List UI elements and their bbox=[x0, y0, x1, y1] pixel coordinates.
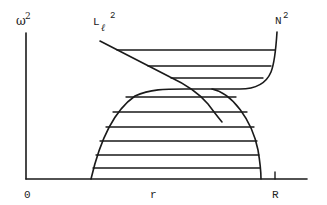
lamb-curve-label: L bbox=[93, 16, 100, 28]
lamb-curve-label-sub: ℓ bbox=[101, 22, 105, 33]
bv-curve-label: N bbox=[275, 15, 282, 27]
lower-hatching bbox=[93, 97, 260, 168]
x-axis-label: r bbox=[150, 189, 157, 201]
origin-label: 0 bbox=[24, 189, 31, 201]
propagation-diagram: ω 2 L ℓ 2 N 2 0 r R bbox=[0, 0, 327, 205]
bv-curve-label-sup: 2 bbox=[283, 11, 288, 21]
dome-envelope-curve bbox=[91, 89, 261, 179]
lamb-frequency-curve bbox=[100, 41, 222, 122]
y-axis-label-sup: 2 bbox=[25, 11, 31, 21]
buoyancy-frequency-curve bbox=[212, 32, 277, 89]
lamb-curve-label-sup: 2 bbox=[110, 11, 115, 21]
radius-label: R bbox=[272, 189, 279, 201]
upper-hatching bbox=[117, 50, 275, 78]
